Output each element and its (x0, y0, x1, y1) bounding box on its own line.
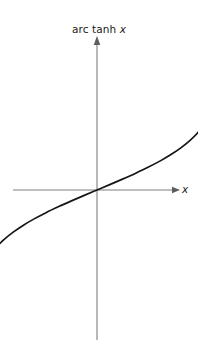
x-axis-arrowhead-icon (172, 187, 180, 194)
chart-title-prefix: arc tanh (72, 23, 120, 35)
chart-title: arc tanh x (0, 23, 198, 35)
plot-area (0, 0, 198, 353)
y-axis-arrowhead-icon (94, 36, 101, 45)
chart-title-variable: x (120, 23, 126, 35)
chart-figure: arc tanh x x (0, 0, 198, 353)
x-axis-label: x (182, 183, 188, 195)
